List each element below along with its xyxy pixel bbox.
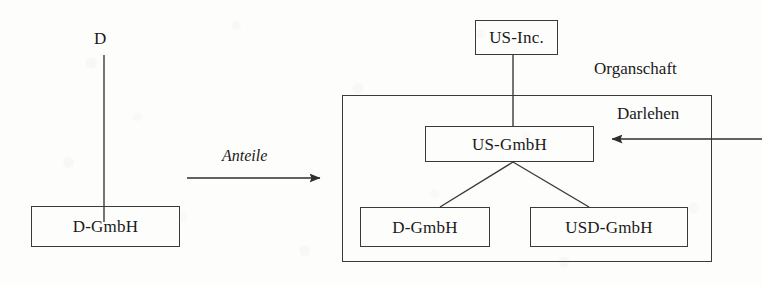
owner-label-d: D (94, 30, 106, 47)
organschaft-label: Organschaft (594, 60, 677, 77)
anteile-label: Anteile (222, 148, 267, 164)
connector-usgmbh-to-usdgmbh (513, 162, 589, 207)
diagram-canvas: D Anteile Organschaft Darlehen D-GmbH US… (0, 0, 762, 285)
node-us-gmbh: US-GmbH (425, 126, 594, 162)
node-label: D-GmbH (73, 218, 138, 235)
node-usd-gmbh: USD-GmbH (530, 207, 688, 247)
node-d-gmbh-right: D-GmbH (360, 207, 490, 247)
connector-usgmbh-to-dgmbh (440, 162, 513, 207)
darlehen-label: Darlehen (617, 105, 679, 122)
node-label: USD-GmbH (565, 219, 653, 236)
node-label: D-GmbH (392, 219, 457, 236)
node-us-inc: US-Inc. (475, 20, 558, 55)
node-label: US-GmbH (472, 136, 547, 153)
node-label: US-Inc. (489, 29, 544, 46)
node-d-gmbh-left: D-GmbH (31, 206, 180, 247)
